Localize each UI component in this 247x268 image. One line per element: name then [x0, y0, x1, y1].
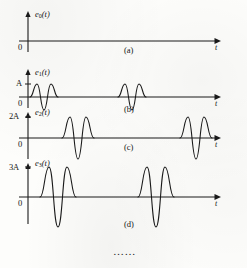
panel-d-amplitude-label: 3A: [9, 163, 19, 172]
panel-c-origin-label: 0: [18, 140, 22, 149]
panel-d-y-arrow-icon: [25, 163, 30, 169]
panel-d: e3(t) 3A 0 t (d): [0, 158, 247, 238]
waveform-figure: e0(t) 0 t (a) e1(t) A 0 t (b): [0, 0, 247, 268]
continuation-ellipsis: ……: [113, 245, 136, 257]
panel-b-signal-arg: (t): [42, 67, 50, 77]
panel-c-tag: (c): [124, 143, 133, 152]
panel-d-signal-arg: (t): [42, 158, 50, 168]
panel-a-axis-label: t: [215, 44, 217, 52]
panel-a-y-arrow-icon: [25, 11, 30, 17]
panel-c-amplitude-label: 2A: [9, 112, 19, 121]
panel-d-signal-label: e3(t): [35, 159, 50, 168]
panel-c-signal-label: e2(t): [35, 108, 50, 117]
panel-d-axis-label: t: [215, 200, 217, 208]
panel-a: e0(t) 0 t (a): [0, 0, 247, 62]
panel-a-signal-arg: (t): [42, 9, 50, 19]
panel-a-signal-label: e0(t): [35, 10, 50, 19]
panel-b-signal-label: e1(t): [35, 68, 50, 77]
panel-a-origin-label: 0: [18, 43, 22, 52]
panel-d-tag: (d): [124, 220, 134, 229]
panel-b-amplitude-label: A: [16, 79, 22, 88]
panel-b-y-arrow-icon: [25, 69, 30, 75]
panel-d-origin-label: 0: [18, 199, 22, 208]
panel-c-signal-arg: (t): [42, 107, 50, 117]
panel-c-axis-label: t: [215, 141, 217, 149]
panel-a-tag: (a): [124, 46, 133, 55]
